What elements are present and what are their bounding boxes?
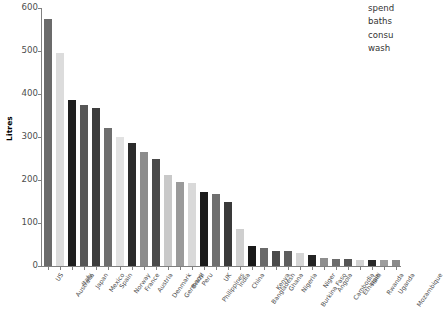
x-tick-mark (144, 267, 145, 270)
x-tick-mark (252, 267, 253, 270)
x-tick-mark (192, 267, 193, 270)
y-axis-ticks: 0100200300400500600 (0, 0, 38, 314)
bar[interactable] (260, 248, 269, 266)
bar[interactable] (284, 251, 293, 266)
bar[interactable] (368, 260, 377, 266)
bar[interactable] (104, 128, 113, 266)
y-tick-label: 400 (0, 89, 38, 98)
y-tick-mark (38, 180, 41, 181)
bar[interactable] (128, 143, 137, 266)
y-tick-label: 200 (0, 175, 38, 184)
x-tick-mark (156, 267, 157, 270)
bar[interactable] (164, 175, 173, 266)
y-tick-label: 300 (0, 132, 38, 141)
bar[interactable] (236, 229, 245, 266)
bar[interactable] (176, 182, 185, 266)
bar[interactable] (320, 258, 329, 266)
x-tick-mark (312, 267, 313, 270)
bar[interactable] (308, 255, 317, 266)
legend-item: spend (368, 2, 404, 15)
x-tick-label: US (55, 272, 65, 282)
bar[interactable] (116, 137, 125, 266)
bar[interactable] (140, 152, 149, 266)
bar[interactable] (200, 192, 209, 266)
x-tick-mark (168, 267, 169, 270)
legend-item: baths (368, 15, 404, 28)
x-tick-mark (240, 267, 241, 270)
y-tick-label: 0 (0, 261, 38, 270)
x-tick-mark (276, 267, 277, 270)
bar[interactable] (212, 194, 221, 266)
x-tick-mark (324, 267, 325, 270)
bar[interactable] (80, 105, 89, 266)
bar[interactable] (392, 260, 401, 266)
x-axis-line (41, 266, 401, 267)
y-tick-mark (38, 8, 41, 9)
bar[interactable] (272, 251, 281, 266)
x-tick-mark (336, 267, 337, 270)
x-tick-mark (132, 267, 133, 270)
y-tick-mark (38, 51, 41, 52)
bar[interactable] (248, 246, 257, 266)
y-tick-mark (38, 137, 41, 138)
x-tick-mark (372, 267, 373, 270)
x-tick-mark (288, 267, 289, 270)
x-tick-mark (60, 267, 61, 270)
x-tick-mark (216, 267, 217, 270)
x-tick-label: Japan (94, 272, 109, 290)
bar[interactable] (356, 260, 365, 266)
x-tick-mark (384, 267, 385, 270)
bar[interactable] (224, 202, 233, 266)
x-tick-mark (204, 267, 205, 270)
y-tick-mark (38, 94, 41, 95)
bar[interactable] (68, 100, 77, 266)
bar[interactable] (152, 159, 161, 267)
x-tick-mark (228, 267, 229, 270)
x-tick-mark (96, 267, 97, 270)
x-tick-mark (120, 267, 121, 270)
bar[interactable] (380, 260, 389, 266)
y-tick-mark (38, 223, 41, 224)
x-tick-mark (108, 267, 109, 270)
x-tick-mark (72, 267, 73, 270)
x-tick-mark (396, 267, 397, 270)
bar[interactable] (56, 53, 65, 266)
x-tick-mark (348, 267, 349, 270)
bar[interactable] (332, 259, 341, 266)
bar[interactable] (344, 259, 353, 266)
legend-item: consu (368, 29, 404, 42)
y-tick-label: 100 (0, 218, 38, 227)
x-tick-label: China (251, 272, 266, 290)
x-tick-label: Mozambique (416, 272, 444, 308)
x-tick-mark (300, 267, 301, 270)
x-tick-mark (264, 267, 265, 270)
plot-area (42, 8, 402, 266)
x-tick-mark (180, 267, 181, 270)
y-tick-label: 500 (0, 46, 38, 55)
y-tick-label: 600 (0, 3, 38, 12)
legend: spendbathsconsuwash (368, 2, 404, 58)
bar[interactable] (296, 253, 305, 266)
bar[interactable] (188, 183, 197, 266)
x-tick-mark (84, 267, 85, 270)
x-tick-mark (48, 267, 49, 270)
bar[interactable] (92, 108, 101, 266)
x-tick-mark (360, 267, 361, 270)
y-tick-mark (38, 266, 41, 267)
legend-item: wash (368, 42, 404, 55)
bar[interactable] (44, 19, 53, 266)
